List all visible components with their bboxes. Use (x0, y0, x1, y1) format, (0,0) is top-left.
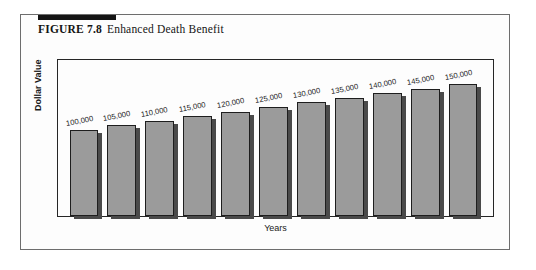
figure-caption: Enhanced Death Benefit (107, 23, 224, 35)
bar-value-label: 135,000 (330, 82, 359, 96)
bar-body (373, 93, 402, 216)
bar-body (70, 130, 99, 216)
bar-value-label: 100,000 (65, 114, 94, 128)
bar (221, 112, 250, 216)
y-axis-label: Dollar Value (33, 59, 43, 111)
bar-body (107, 125, 136, 216)
bar-value-label: 110,000 (141, 105, 169, 119)
bar-body (259, 107, 288, 216)
bar (411, 89, 440, 216)
bar (70, 130, 99, 216)
bar (145, 121, 174, 216)
bar-value-label: 105,000 (103, 109, 132, 123)
bar-value-label: 115,000 (179, 100, 207, 114)
bar-series: 100,000105,000110,000115,000120,000125,0… (58, 60, 493, 216)
bar (183, 116, 212, 216)
bar (335, 98, 364, 216)
bar-value-label: 125,000 (254, 91, 283, 105)
figure-number: FIGURE 7.8 (38, 23, 102, 35)
figure-card: FIGURE 7.8Enhanced Death Benefit Dollar … (20, 14, 510, 250)
title-rule (38, 15, 116, 20)
plot-area: 100,000105,000110,000115,000120,000125,0… (57, 59, 494, 217)
bar-value-label: 150,000 (444, 68, 473, 82)
bar (297, 102, 326, 216)
bar-value-label: 130,000 (292, 86, 321, 100)
x-axis-label: Years (57, 223, 494, 233)
bar (107, 125, 136, 216)
bar-body (183, 116, 212, 216)
bar-body (335, 98, 364, 216)
bar-body (411, 89, 440, 216)
bar-value-label: 140,000 (368, 77, 397, 91)
bar-body (221, 112, 250, 216)
page-title: FIGURE 7.8Enhanced Death Benefit (38, 23, 224, 35)
bar (259, 107, 288, 216)
bar-body (449, 84, 478, 216)
bar-body (297, 102, 326, 216)
bar-value-label: 120,000 (216, 96, 245, 110)
bar-body (145, 121, 174, 216)
bar (449, 84, 478, 216)
bar (373, 93, 402, 216)
bar-value-label: 145,000 (406, 73, 435, 87)
